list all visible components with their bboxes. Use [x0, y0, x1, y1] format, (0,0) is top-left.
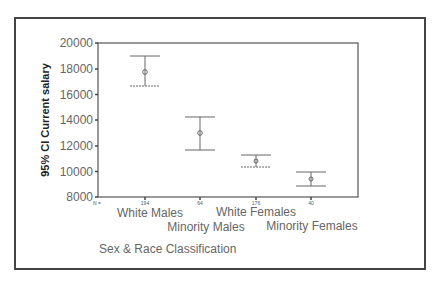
n-count-label: 64: [197, 200, 203, 206]
y-tick-label: 8000: [66, 190, 93, 204]
plot-area: [98, 43, 358, 197]
y-tick-label: 18000: [60, 62, 94, 76]
y-tick-label: 12000: [60, 139, 94, 153]
error-bars: [130, 56, 326, 186]
errorbar-minority-females: [296, 172, 326, 186]
y-tick-label: 16000: [60, 88, 94, 102]
y-tick-label: 14000: [60, 113, 94, 127]
category-label-white-males: White Males: [117, 206, 183, 220]
n-count-label: 40: [308, 200, 314, 206]
y-tick-label: 10000: [60, 165, 94, 179]
error-bar-chart: 20000 18000 16000 14000 12000 10000 8000…: [0, 0, 439, 285]
category-label-white-females: White Females: [216, 205, 296, 219]
errorbar-minority-males: [185, 117, 215, 150]
errorbar-white-females: [241, 155, 271, 167]
category-label-minority-males: Minority Males: [167, 220, 244, 234]
errorbar-white-males: [130, 56, 160, 86]
x-axis-title: Sex & Race Classification: [99, 242, 236, 256]
clipped-caption-text: [0, 279, 439, 285]
n-prefix-label: N =: [93, 200, 101, 206]
category-label-minority-females: Minority Females: [266, 219, 357, 233]
y-axis-title: 95% CI Current salary: [39, 62, 51, 177]
y-axis: 20000 18000 16000 14000 12000 10000 8000: [60, 36, 98, 204]
y-tick-label: 20000: [60, 36, 94, 50]
